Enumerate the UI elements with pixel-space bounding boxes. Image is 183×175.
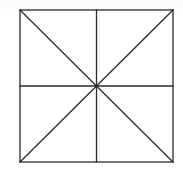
square-diagram (0, 0, 183, 175)
dividing-lines (20, 10, 173, 162)
